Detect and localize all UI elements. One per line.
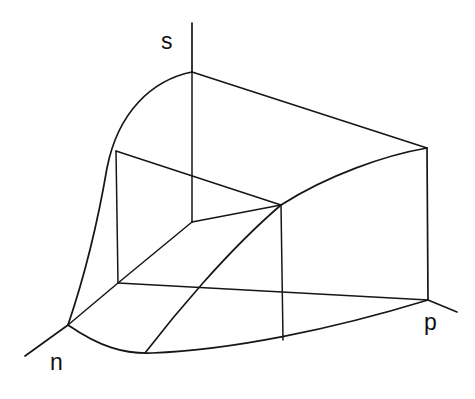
axis-label-n: n bbox=[50, 351, 63, 374]
left-vertical-line bbox=[116, 151, 118, 283]
inner-diagonal-curve bbox=[145, 205, 281, 353]
upper-right-curve bbox=[281, 148, 427, 205]
top-edge-line bbox=[192, 72, 427, 148]
mid-right-vertical-line bbox=[281, 205, 283, 340]
center-left-diagonal bbox=[118, 222, 192, 283]
axis-label-s: s bbox=[161, 30, 173, 53]
upper-diagonal-line bbox=[116, 151, 281, 205]
right-far-vertical bbox=[427, 148, 428, 300]
left-boundary-curve bbox=[68, 72, 192, 325]
figure-canvas: s n p bbox=[0, 0, 475, 399]
floor-right-edge bbox=[118, 283, 428, 300]
axis-label-p: p bbox=[424, 311, 437, 334]
three-axis-surface-diagram bbox=[0, 0, 475, 399]
center-right-diagonal bbox=[192, 205, 281, 222]
bottom-boundary-curve bbox=[68, 300, 428, 353]
